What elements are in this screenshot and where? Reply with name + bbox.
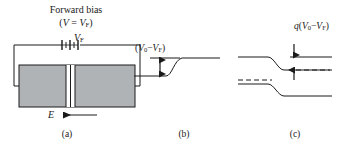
forward-bias-pn-junction-figure: Forward bias (V = VF) VF p n E (V0−VF) q… <box>0 0 360 150</box>
conduction-band-line <box>238 57 300 70</box>
valence-band-line <box>238 84 332 96</box>
battery-symbol <box>62 40 78 50</box>
semiconductor-block <box>19 65 135 107</box>
panel-a-circuit <box>14 40 140 115</box>
panel-b-potential-profile <box>134 58 220 76</box>
potential-transition-curve <box>166 58 220 76</box>
figure-artwork <box>0 0 360 150</box>
panel-c-band-diagram <box>238 44 332 96</box>
